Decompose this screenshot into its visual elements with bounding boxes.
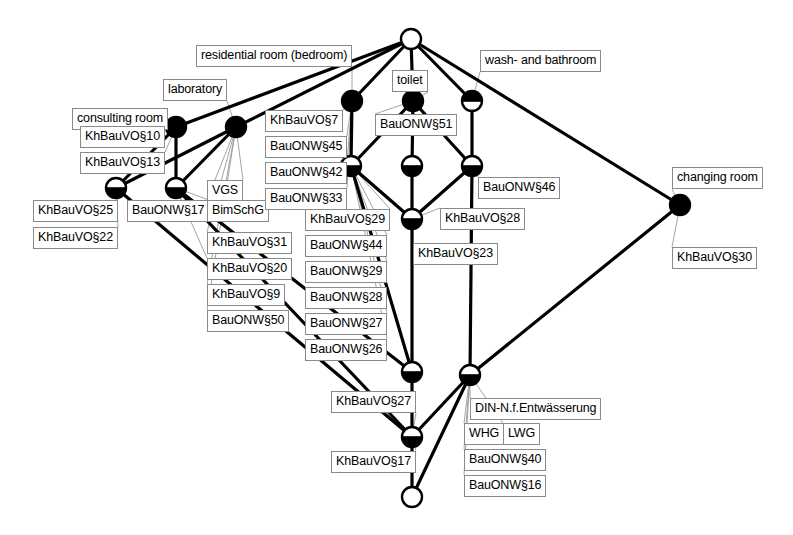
attribute-label-attr-bauonw50[interactable]: BauONW§50 [207,310,289,332]
attribute-label-attr-khbauvo13[interactable]: KhBauVO§13 [80,152,165,174]
lattice-node[interactable] [403,91,423,111]
attribute-label-attr-bauonw51[interactable]: BauONW§51 [375,114,457,136]
lattice-node[interactable] [460,365,480,385]
attribute-label-attr-bauonw42[interactable]: BauONW§42 [265,162,347,184]
lattice-node[interactable] [402,427,422,447]
lattice-node[interactable] [166,178,186,198]
attribute-label-attr-khbauvo30[interactable]: KhBauVO§30 [672,247,757,269]
node-circle [402,487,422,507]
attribute-label-attr-khbauvo28[interactable]: KhBauVO§28 [440,208,525,230]
attribute-label-attr-whg[interactable]: WHG [464,423,504,445]
node-circle [403,91,423,111]
attribute-label-attr-bauonw40[interactable]: BauONW§40 [464,449,546,471]
attribute-label-attr-khbauvo27[interactable]: KhBauVO§27 [331,391,416,413]
attribute-label-attr-khbauvo29[interactable]: KhBauVO§29 [305,209,390,231]
object-label-obj-wash-bathroom[interactable]: wash- and bathroom [480,50,601,72]
attribute-label-attr-lwg[interactable]: LWG [503,423,540,445]
attribute-label-attr-khbauvo7[interactable]: KhBauVO§7 [265,110,343,132]
node-circle [401,29,421,49]
attribute-label-attr-khbauvo9[interactable]: KhBauVO§9 [207,284,285,306]
lattice-node[interactable] [402,209,422,229]
attribute-label-attr-vgs[interactable]: VGS [207,180,243,202]
attribute-label-attr-khbauvo20[interactable]: KhBauVO§20 [207,258,292,280]
lattice-node[interactable] [106,178,126,198]
attribute-label-attr-khbauvo31[interactable]: KhBauVO§31 [207,232,292,254]
attribute-label-attr-khbauvo22[interactable]: KhBauVO§22 [33,227,118,249]
lattice-edge [470,166,472,375]
lattice-node[interactable] [401,29,421,49]
attribute-label-attr-bauonw44[interactable]: BauONW§44 [305,235,387,257]
lattice-node[interactable] [402,362,422,382]
attribute-label-attr-din-entwaesserung[interactable]: DIN-N.f.Entwässerung [470,398,601,420]
lattice-node[interactable] [342,91,362,111]
attribute-label-attr-bauonw27[interactable]: BauONW§27 [305,313,387,335]
node-circle [166,117,186,137]
attribute-label-attr-bauonw26[interactable]: BauONW§26 [305,339,387,361]
object-label-obj-laboratory[interactable]: laboratory [163,79,227,101]
label-leader-line [414,413,416,426]
label-leader-line [672,216,678,247]
object-label-obj-changing-room[interactable]: changing room [672,167,763,189]
label-leader-line [343,109,344,110]
attribute-label-attr-bauonw33[interactable]: BauONW§33 [265,188,347,210]
diagram-canvas: residential room (bedroom)laboratorycons… [0,0,793,535]
attribute-label-attr-bauonw45[interactable]: BauONW§45 [265,136,347,158]
attribute-label-attr-bauonw28[interactable]: BauONW§28 [305,287,387,309]
attribute-label-attr-khbauvo10[interactable]: KhBauVO§10 [80,126,165,148]
lattice-node[interactable] [402,487,422,507]
attribute-label-attr-bauonw29[interactable]: BauONW§29 [305,261,387,283]
attribute-label-attr-bauonw46[interactable]: BauONW§46 [478,177,560,199]
node-circle [342,91,362,111]
lattice-edge [176,127,236,188]
lattice-edge [470,205,680,375]
lattice-node[interactable] [226,117,246,137]
object-label-obj-toilet[interactable]: toilet [392,70,428,92]
attribute-label-attr-bimschg[interactable]: BimSchG [207,200,269,222]
attribute-label-attr-khbauvo25[interactable]: KhBauVO§25 [33,200,118,222]
lattice-node[interactable] [670,195,690,215]
lattice-node[interactable] [462,156,482,176]
lattice-edges [116,39,680,497]
attribute-label-attr-khbauvo23[interactable]: KhBauVO§23 [413,243,498,265]
label-leader-line [237,138,243,180]
node-circle [226,117,246,137]
lattice-edge [412,375,470,437]
label-leader-line [375,105,403,114]
attribute-label-attr-bauonw17[interactable]: BauONW§17 [127,200,209,222]
label-leader-line [422,92,428,95]
attribute-label-attr-bauonw16[interactable]: BauONW§16 [464,475,546,497]
attribute-label-attr-khbauvo17[interactable]: KhBauVO§17 [331,451,416,473]
lattice-node[interactable] [462,91,482,111]
lattice-node[interactable] [166,117,186,137]
node-circle [670,195,690,215]
label-leader-line [672,189,675,195]
lattice-node[interactable] [402,156,422,176]
object-label-obj-residential-room[interactable]: residential room (bedroom) [196,45,352,67]
